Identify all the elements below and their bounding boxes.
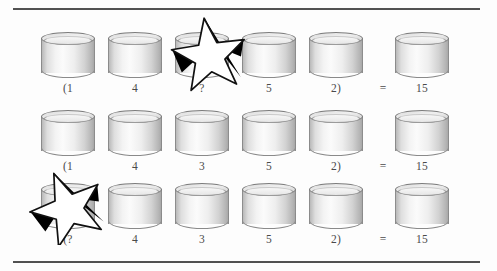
database-cylinder-icon bbox=[395, 183, 449, 230]
cell-label: 2) bbox=[308, 233, 364, 245]
equation-row: (? 4 3 5 bbox=[0, 181, 497, 259]
database-cylinder-icon bbox=[108, 110, 162, 157]
database-cylinder-icon bbox=[242, 32, 296, 79]
database-cylinder-icon bbox=[41, 32, 95, 79]
database-cell[interactable]: 5 bbox=[241, 181, 297, 259]
result-label: 15 bbox=[394, 233, 450, 245]
database-cell[interactable]: 4 bbox=[107, 30, 163, 108]
database-result-cell[interactable]: 15 bbox=[394, 181, 450, 259]
database-cylinder-icon bbox=[309, 110, 363, 157]
database-cylinder-icon bbox=[242, 183, 296, 230]
database-cylinder-icon bbox=[108, 32, 162, 79]
cell-label: 2) bbox=[308, 160, 364, 172]
database-cell[interactable]: 4 bbox=[107, 181, 163, 259]
database-cylinder-icon bbox=[395, 32, 449, 79]
database-cell[interactable]: 3 bbox=[174, 108, 230, 186]
cell-label: 3 bbox=[174, 233, 230, 245]
bottom-divider-rule bbox=[13, 261, 480, 263]
database-cylinder-icon bbox=[175, 32, 229, 79]
cell-label: 5 bbox=[241, 82, 297, 94]
cell-label: 5 bbox=[241, 160, 297, 172]
cell-label: 2) bbox=[308, 82, 364, 94]
result-label: 15 bbox=[394, 82, 450, 94]
cell-label: ? bbox=[174, 82, 230, 94]
database-cylinder-icon bbox=[309, 183, 363, 230]
database-cylinder-icon bbox=[41, 183, 95, 230]
top-divider-rule bbox=[13, 8, 480, 10]
cell-label: 4 bbox=[107, 233, 163, 245]
database-cylinder-icon bbox=[309, 32, 363, 79]
cell-label: 3 bbox=[174, 160, 230, 172]
database-result-cell[interactable]: 15 bbox=[394, 30, 450, 108]
cell-label: 4 bbox=[107, 82, 163, 94]
figure-canvas: (1 4 ? 5 bbox=[0, 0, 497, 271]
database-cell[interactable]: ? bbox=[174, 30, 230, 108]
database-result-cell[interactable]: 15 bbox=[394, 108, 450, 186]
equals-sign: = bbox=[371, 82, 395, 94]
database-cylinder-icon bbox=[175, 183, 229, 230]
equals-sign: = bbox=[371, 160, 395, 172]
cell-label: 4 bbox=[107, 160, 163, 172]
database-cell[interactable]: 2) bbox=[308, 108, 364, 186]
database-cell[interactable]: 5 bbox=[241, 30, 297, 108]
database-cell[interactable]: (? bbox=[40, 181, 96, 259]
equals-sign: = bbox=[371, 233, 395, 245]
database-cell[interactable]: 5 bbox=[241, 108, 297, 186]
database-cell[interactable]: 2) bbox=[308, 30, 364, 108]
cell-label: 5 bbox=[241, 233, 297, 245]
database-cell[interactable]: (1 bbox=[40, 108, 96, 186]
database-cell[interactable]: 2) bbox=[308, 181, 364, 259]
database-cylinder-icon bbox=[175, 110, 229, 157]
cell-label: (? bbox=[40, 233, 96, 245]
database-cylinder-icon bbox=[242, 110, 296, 157]
database-cell[interactable]: 3 bbox=[174, 181, 230, 259]
cell-label: (1 bbox=[40, 160, 96, 172]
database-cell[interactable]: 4 bbox=[107, 108, 163, 186]
database-cylinder-icon bbox=[395, 110, 449, 157]
database-cylinder-icon bbox=[41, 110, 95, 157]
equation-row: (1 4 3 5 bbox=[0, 108, 497, 186]
result-label: 15 bbox=[394, 160, 450, 172]
equation-row: (1 4 ? 5 bbox=[0, 30, 497, 108]
database-cell[interactable]: (1 bbox=[40, 30, 96, 108]
cell-label: (1 bbox=[40, 82, 96, 94]
database-cylinder-icon bbox=[108, 183, 162, 230]
